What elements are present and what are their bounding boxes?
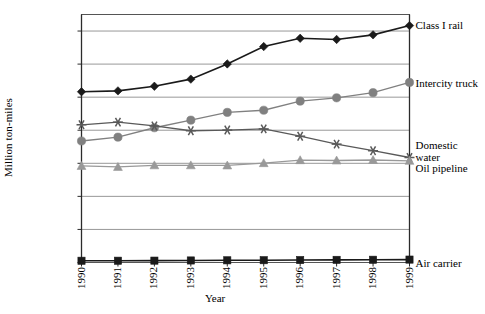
- series-label: Intercity truck: [416, 78, 479, 90]
- series-label: Class I rail: [416, 20, 464, 32]
- series-label: Oil pipeline: [416, 163, 468, 175]
- line-chart: Million ton-miles Year 0200,000400,00060…: [0, 0, 485, 314]
- series-label: Air carrier: [416, 258, 462, 270]
- series-label: Domestic water: [416, 140, 458, 163]
- series-labels: Class I railIntercity truckDomestic wate…: [0, 0, 485, 314]
